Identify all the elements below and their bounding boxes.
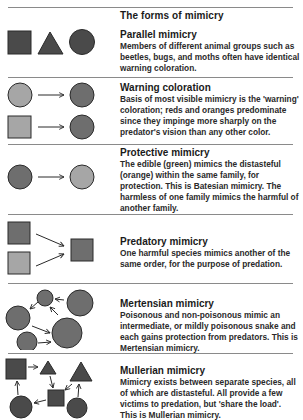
circle-icon (70, 165, 94, 189)
square-icon (8, 252, 30, 274)
section-predatory: Predatory mimicry One harmful species mi… (120, 236, 300, 270)
arrow-icon (36, 254, 64, 266)
section-body: Basis of most visible mimicry is the 'wa… (120, 94, 300, 138)
circle-icon (70, 115, 94, 139)
divider (8, 77, 293, 78)
section-body: The edible (green) mimics the distastefu… (120, 159, 300, 214)
circle-icon (70, 83, 94, 107)
circle-icon (10, 396, 32, 418)
square-icon (48, 390, 64, 406)
triangle-icon (40, 361, 56, 374)
section-heading: Predatory mimicry (120, 236, 300, 248)
triangle-icon (70, 362, 92, 381)
section-heading: Protective mimicry (120, 147, 300, 159)
section-mullerian: Mullerian mimicry Mimicry exists between… (120, 365, 300, 420)
warning-coloration-diagram (0, 81, 110, 143)
section-body: Mimicry exists between separate species,… (120, 377, 300, 420)
section-mertensian: Mertensian mimicry Poisonous and non-poi… (120, 298, 300, 354)
section-body: One harmful species mimics another of th… (120, 248, 300, 270)
circle-icon (8, 83, 32, 107)
mertensian-mimicry-diagram (0, 288, 110, 350)
circle-icon (70, 30, 95, 55)
divider (8, 144, 293, 145)
divider (8, 353, 293, 354)
section-heading: Mertensian mimicry (120, 298, 300, 310)
section-heading: Parallel mimicry (120, 29, 300, 41)
section-heading: Warning coloration (120, 82, 300, 94)
circle-icon (52, 318, 82, 348)
square-icon (8, 31, 31, 54)
circle-icon (67, 398, 87, 418)
section-protective: Protective mimicry The edible (green) mi… (120, 147, 300, 214)
predatory-mimicry-diagram (0, 220, 110, 280)
triangle-icon (38, 32, 63, 54)
section-parallel: Parallel mimicry Members of different an… (120, 29, 300, 74)
circle-icon (37, 290, 53, 306)
square-icon (6, 359, 26, 379)
page-title: The forms of mimicry (120, 10, 224, 21)
section-body: Members of different animal groups such … (120, 41, 300, 74)
circle-icon (17, 332, 37, 350)
protective-mimicry-diagram (0, 163, 110, 193)
section-heading: Mullerian mimicry (120, 365, 300, 377)
parallel-mimicry-diagram (0, 28, 110, 58)
top-rule (8, 7, 293, 8)
arrow-icon (36, 234, 64, 246)
section-body: Poisonous and non-poisonous mimic an int… (120, 310, 300, 354)
divider (8, 214, 293, 215)
square-icon (71, 239, 93, 261)
divider (8, 283, 293, 284)
square-icon (8, 116, 31, 138)
circle-icon (6, 306, 30, 330)
section-warning: Warning coloration Basis of most visible… (120, 82, 300, 138)
circle-icon (8, 165, 32, 189)
mullerian-mimicry-diagram (0, 357, 110, 419)
circle-icon (67, 290, 93, 316)
square-icon (8, 222, 30, 244)
